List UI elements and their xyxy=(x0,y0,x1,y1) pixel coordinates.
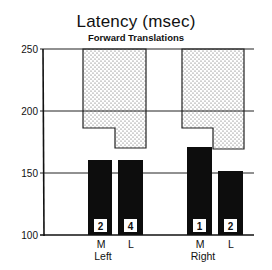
x-label-left-l: L xyxy=(128,238,134,250)
y-tick-250: 250 xyxy=(21,44,38,55)
stipple-region-left xyxy=(83,49,146,148)
y-tick-150: 150 xyxy=(21,168,38,179)
bar-number-right-l: 2 xyxy=(228,221,234,232)
stipple-region-right xyxy=(182,49,244,149)
x-label-right-m: M xyxy=(196,238,205,250)
bar-number-left-l: 4 xyxy=(128,221,134,232)
bar-number-left-m: 2 xyxy=(98,221,104,232)
x-label-left-m: M xyxy=(97,238,106,250)
x-label-right-l: L xyxy=(228,238,234,250)
group-label-right: Right xyxy=(191,250,216,262)
group-label-left: Left xyxy=(94,250,112,262)
y-tick-100: 100 xyxy=(21,230,38,241)
chart-plot: 2 4 1 2 250 200 150 100 M L M L Left Rig… xyxy=(0,0,272,270)
y-tick-200: 200 xyxy=(21,106,38,117)
bar-number-right-m: 1 xyxy=(197,221,203,232)
y-axis xyxy=(43,49,44,236)
